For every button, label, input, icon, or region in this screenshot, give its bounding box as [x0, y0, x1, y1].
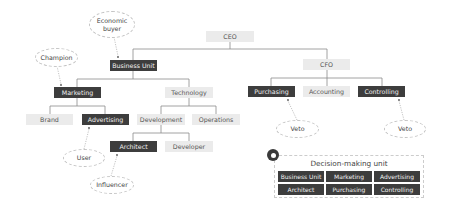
- pointer-influencer: [111, 156, 117, 176]
- dmu-member: Marketing: [326, 171, 372, 182]
- connector-technology-operations: [189, 106, 216, 114]
- role-veto-controlling: Veto: [384, 120, 426, 138]
- role-user: User: [63, 149, 105, 167]
- node-development: Development: [137, 114, 185, 125]
- node-business-unit: Business Unit: [110, 60, 157, 71]
- dmu-member: Architect: [278, 184, 324, 195]
- connector-bu-technology: [133, 79, 189, 87]
- role-economic-buyer-line1: Economic: [97, 17, 127, 25]
- role-influencer-label: Influencer: [96, 181, 128, 189]
- node-architect: Architect: [110, 141, 157, 152]
- node-advertising: Advertising: [82, 114, 129, 125]
- dmu-member: Controlling: [374, 184, 420, 195]
- connector-marketing-brand: [50, 98, 77, 114]
- role-champion: Champion: [35, 48, 78, 67]
- pointer-champion: [57, 66, 61, 84]
- role-veto-purchasing: Veto: [276, 120, 319, 138]
- connector-ceo-cfo: [230, 49, 327, 59]
- node-technology: Technology: [165, 87, 213, 98]
- node-operations: Operations: [192, 114, 240, 125]
- pointer-veto-purchasing: [288, 101, 297, 120]
- dmu-badge-icon: [267, 149, 279, 161]
- connector-cfo-controlling: [327, 78, 382, 86]
- pointer-economic-buyer: [114, 37, 118, 56]
- role-economic-buyer: Economic buyer: [89, 11, 135, 38]
- decision-making-unit-box: Decision-making unit Business Unit Marke…: [274, 155, 424, 198]
- connector-marketing-advertising: [77, 106, 105, 114]
- node-marketing: Marketing: [54, 87, 101, 98]
- node-purchasing: Purchasing: [248, 86, 295, 97]
- connector-ceo-business-unit: [133, 42, 230, 60]
- role-veto-purchasing-label: Veto: [290, 125, 304, 133]
- node-ceo: CEO: [206, 31, 254, 42]
- pointer-veto-controlling: [399, 101, 404, 120]
- role-economic-buyer-line2: buyer: [103, 25, 121, 33]
- connector-technology-development: [161, 98, 189, 114]
- node-accounting: Accounting: [303, 86, 350, 97]
- node-cfo: CFO: [303, 59, 350, 70]
- connector-bu-marketing: [77, 71, 133, 87]
- connector-development-architect: [133, 125, 161, 141]
- role-veto-controlling-label: Veto: [398, 125, 412, 133]
- dmu-member: Business Unit: [278, 171, 324, 182]
- node-brand: Brand: [26, 114, 73, 125]
- dmu-members: Business Unit Marketing Advertising Arch…: [278, 171, 420, 195]
- role-user-label: User: [77, 154, 91, 162]
- role-influencer: Influencer: [90, 176, 134, 194]
- dmu-member: Advertising: [374, 171, 420, 182]
- node-developer: Developer: [165, 141, 213, 152]
- connector-development-developer: [161, 133, 189, 141]
- dmu-title: Decision-making unit: [275, 159, 423, 168]
- node-controlling: Controlling: [358, 86, 405, 97]
- connector-cfo-purchasing: [271, 70, 327, 86]
- pointer-user: [84, 129, 89, 149]
- dmu-member: Purchasing: [326, 184, 372, 195]
- role-champion-label: Champion: [41, 54, 73, 62]
- decision-making-unit-diagram: CEO Business Unit CFO Marketing Technolo…: [0, 0, 449, 211]
